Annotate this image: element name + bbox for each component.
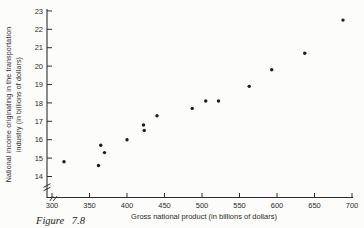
y-tick-label: 16 xyxy=(35,135,43,144)
y-tick-label: 15 xyxy=(35,154,43,163)
y-tick-label: 20 xyxy=(35,62,43,71)
y-axis-label: National income originating in the trans… xyxy=(4,0,25,210)
data-point xyxy=(142,123,145,126)
x-tick-label: 500 xyxy=(196,201,209,210)
y-tick-label: 18 xyxy=(35,99,43,108)
scanned-textbook-figure: 1415161718192021222330035040045050055060… xyxy=(0,0,364,228)
y-axis-label-line1: National income originating in the trans… xyxy=(4,0,14,210)
data-point xyxy=(99,144,102,147)
y-tick-label: 23 xyxy=(35,7,43,16)
x-tick-label: 350 xyxy=(83,201,96,210)
x-tick-label: 550 xyxy=(233,201,246,210)
x-tick-label: 600 xyxy=(271,201,284,210)
scatter-plot: 1415161718192021222330035040045050055060… xyxy=(0,0,364,228)
x-axis-label: Gross national product (in billions of d… xyxy=(116,212,292,221)
y-tick-label: 19 xyxy=(35,80,43,89)
data-point xyxy=(341,18,344,21)
x-tick-label: 650 xyxy=(308,201,321,210)
data-point xyxy=(97,164,100,167)
data-point xyxy=(191,107,194,110)
y-tick-label: 22 xyxy=(35,25,43,34)
y-axis-label-line2: industry (in billions of dollars) xyxy=(13,0,23,210)
data-point xyxy=(62,160,65,163)
figure-caption: Figure 7.8 xyxy=(36,215,85,226)
data-point xyxy=(155,114,158,117)
x-tick-label: 300 xyxy=(46,201,59,210)
y-tick-label: 17 xyxy=(35,117,43,126)
data-point xyxy=(143,129,146,132)
axis-line xyxy=(47,9,353,198)
x-tick-label: 450 xyxy=(158,201,171,210)
data-point xyxy=(125,138,128,141)
data-point xyxy=(217,99,220,102)
data-point xyxy=(204,99,207,102)
x-tick-label: 400 xyxy=(121,201,134,210)
data-point xyxy=(103,151,106,154)
data-point xyxy=(270,68,273,71)
y-tick-label: 14 xyxy=(35,172,43,181)
x-tick-label: 700 xyxy=(346,201,359,210)
y-tick-label: 21 xyxy=(35,43,43,52)
data-point xyxy=(248,85,251,88)
data-point xyxy=(303,52,306,55)
